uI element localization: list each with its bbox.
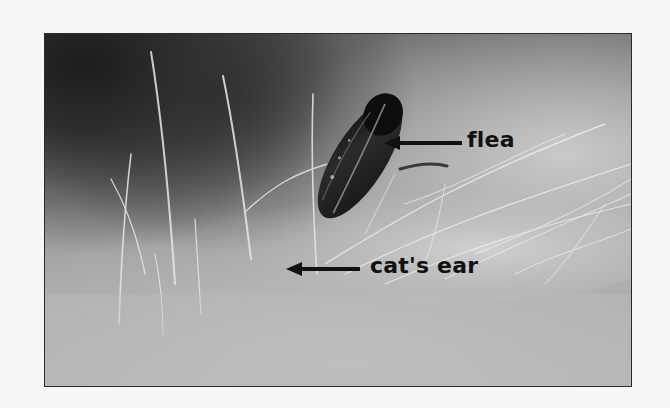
flea-arrow-icon bbox=[384, 136, 464, 150]
fur-and-flea-illustration bbox=[45, 34, 631, 386]
photo-frame bbox=[44, 33, 632, 387]
cats-ear-label: cat's ear bbox=[370, 255, 478, 277]
cats-ear-arrow-icon bbox=[286, 262, 362, 276]
flea-label: flea bbox=[467, 129, 515, 151]
